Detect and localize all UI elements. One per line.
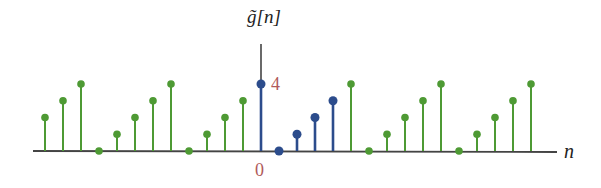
tick-label-zero: 0 (255, 160, 264, 181)
stem-marker (473, 130, 481, 138)
stem-marker (437, 80, 445, 88)
stem-marker (167, 80, 175, 88)
stem-marker (329, 96, 338, 105)
stem-marker (293, 130, 302, 139)
stem-marker (113, 130, 121, 138)
stem-plot (0, 0, 601, 188)
stem-marker (221, 114, 229, 122)
stem-marker (203, 130, 211, 138)
stem-marker (311, 113, 320, 122)
x-axis-label: n (564, 140, 574, 163)
tick-label-four: 4 (271, 74, 280, 95)
stem-marker (347, 80, 355, 88)
stem-marker (455, 147, 463, 155)
stem-marker (491, 114, 499, 122)
stem-marker (527, 80, 535, 88)
stem-marker (77, 80, 85, 88)
stem-marker (383, 130, 391, 138)
stem-marker (41, 114, 49, 122)
stem-marker (149, 97, 157, 105)
stem-marker (419, 97, 427, 105)
y-axis-label: g̃[n] (247, 6, 281, 28)
stem-marker (257, 80, 266, 89)
stem-marker (509, 97, 517, 105)
stem-marker (131, 114, 139, 122)
stem-marker (239, 97, 247, 105)
stem-marker (59, 97, 67, 105)
stem-marker (365, 147, 373, 155)
stem-marker (95, 147, 103, 155)
x-axis-line (33, 151, 557, 152)
stem-marker (401, 114, 409, 122)
stem-marker (185, 147, 193, 155)
stem-marker (275, 147, 284, 156)
